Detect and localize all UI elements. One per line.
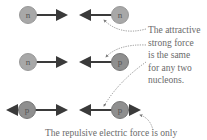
caption-line: The attractive [148,24,207,37]
caption-line: nucleons. [148,74,207,87]
caption: The attractive strong force is the same … [148,24,207,87]
nucleon-label: p [118,105,123,115]
caption-line: is the same [148,49,207,62]
nucleon-label: n [118,10,123,20]
caption-line: for any two [148,62,207,75]
nucleon-label: n [26,10,31,20]
leader-line [106,45,146,57]
nucleon-label: n [26,57,31,67]
row-n-n [20,7,129,24]
caption-line: strong force [148,37,207,50]
bottom-caption: The repulsive electric force is only [45,128,207,138]
row-n-p [20,54,129,71]
nucleon-label: p [118,57,123,67]
nucleon-label: p [25,105,30,115]
